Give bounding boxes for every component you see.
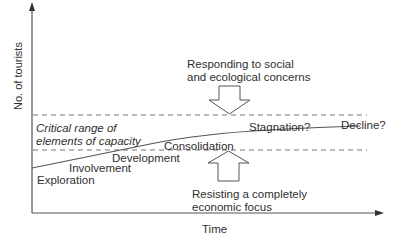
x-axis-label: Time (202, 223, 227, 235)
up-arrow-icon (208, 151, 249, 181)
stage-consolidation: Consolidation (164, 140, 234, 152)
bottom-annotation-line2: economic focus (192, 201, 272, 213)
top-annotation-line2: and ecological concerns (187, 71, 310, 83)
bottom-annotation-line1: Resisting a completely (192, 188, 307, 200)
y-axis-label: No. of tourists (12, 41, 24, 111)
top-annotation-line1: Responding to social (187, 58, 294, 70)
stage-exploration: Exploration (37, 174, 95, 186)
stage-decline: Decline? (341, 119, 386, 131)
y-axis-arrowhead-icon (29, 2, 35, 11)
capacity-label-line1: Critical range of (36, 122, 117, 134)
x-axis-arrowhead-icon (375, 210, 384, 216)
capacity-label-line2: elements of capacity (36, 135, 141, 147)
down-arrow-icon (209, 86, 250, 114)
stage-stagnation: Stagnation? (249, 121, 310, 133)
stage-development: Development (112, 152, 180, 164)
